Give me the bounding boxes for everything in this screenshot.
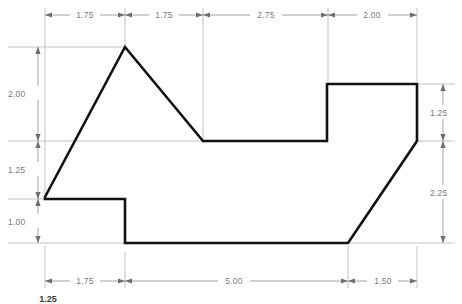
arrow-up-icon (35, 199, 40, 206)
arrow-right-icon (410, 12, 417, 17)
arrow-left-icon (348, 278, 355, 283)
arrow-down-icon (440, 236, 445, 243)
dimension-right-2-label: 2.25 (430, 188, 447, 198)
dimension-top-2: 1.75 (125, 9, 203, 21)
dimension-lines-group: 1.75 1.75 2.75 2.00 (8, 9, 450, 287)
arrow-up-icon (35, 141, 40, 148)
arrow-left-icon (45, 278, 52, 283)
dimension-left-1-label: 2.00 (8, 89, 25, 99)
dimension-right-1: 1.25 (430, 84, 450, 141)
dimension-left-2-label: 1.25 (8, 165, 25, 175)
dimension-left-3-label: 1.00 (8, 217, 25, 227)
drawing-svg: 1.75 1.75 2.75 2.00 (0, 0, 462, 304)
dimension-left-2: 1.25 (8, 141, 42, 199)
dimension-top-2-label: 1.75 (155, 10, 172, 20)
arrow-up-icon (440, 84, 445, 91)
arrow-right-icon (321, 12, 328, 17)
arrow-left-icon (125, 12, 132, 17)
arrow-right-icon (410, 278, 417, 283)
arrow-left-icon (203, 12, 210, 17)
arrow-left-icon (328, 12, 335, 17)
dimension-bottom-1: 1.75 (45, 275, 125, 287)
dimension-top-1-label: 1.75 (76, 10, 93, 20)
arrow-right-icon (118, 12, 125, 17)
clipped-bottom-label: 1.25 (39, 294, 57, 304)
dimension-right-1-label: 1.25 (430, 108, 447, 118)
dimension-right-2: 2.25 (430, 141, 450, 243)
dimension-left-3: 1.00 (8, 199, 42, 243)
arrow-down-icon (440, 134, 445, 141)
dimension-bottom-1-label: 1.75 (76, 276, 93, 286)
arrow-right-icon (118, 278, 125, 283)
part-outline-profile (45, 47, 417, 243)
dimension-top-3: 2.75 (203, 9, 328, 21)
arrow-down-icon (35, 134, 40, 141)
arrow-down-icon (35, 192, 40, 199)
dimension-bottom-2: 5.00 (125, 275, 348, 287)
dimension-top-4-label: 2.00 (363, 10, 380, 20)
arrow-right-icon (196, 12, 203, 17)
arrow-right-icon (341, 278, 348, 283)
dimension-left-1: 2.00 (8, 47, 42, 141)
technical-drawing-canvas: 1.75 1.75 2.75 2.00 (0, 0, 462, 304)
dimension-top-3-label: 2.75 (257, 10, 274, 20)
arrow-left-icon (45, 12, 52, 17)
dimension-top-1: 1.75 (45, 9, 125, 21)
dimension-text-mask (28, 86, 42, 100)
dimension-top-4: 2.00 (328, 9, 417, 21)
arrow-left-icon (125, 278, 132, 283)
extension-lines-group (8, 8, 455, 288)
dimension-bottom-3: 1.50 (348, 275, 417, 287)
dimension-text-mask (28, 162, 42, 176)
arrow-down-icon (35, 236, 40, 243)
dimension-text-mask (28, 214, 42, 228)
arrow-up-icon (35, 47, 40, 54)
dimension-bottom-3-label: 1.50 (374, 276, 391, 286)
arrow-up-icon (440, 141, 445, 148)
dimension-bottom-2-label: 5.00 (225, 276, 242, 286)
